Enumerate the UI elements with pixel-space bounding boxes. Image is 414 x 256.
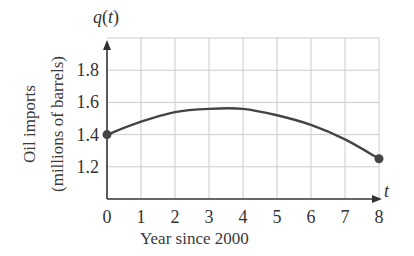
y-tick-label: 1.8 bbox=[77, 60, 100, 80]
y-tick-label: 1.6 bbox=[77, 92, 100, 112]
x-tick-label: 8 bbox=[375, 207, 384, 227]
y-axis-arrow-icon bbox=[103, 40, 111, 50]
x-axis-title: Year since 2000 bbox=[140, 229, 340, 249]
y-axis-function-label: q(t) bbox=[93, 7, 119, 28]
x-tick-label: 7 bbox=[341, 207, 350, 227]
endpoint-dot bbox=[375, 154, 384, 163]
tick-labels: 0123456781.21.41.61.8 bbox=[77, 60, 384, 227]
y-axis-title-line1: Oil imports bbox=[20, 74, 40, 174]
x-tick-label: 0 bbox=[103, 207, 112, 227]
x-axis-arrow-icon bbox=[372, 195, 382, 203]
y-tick-label: 1.2 bbox=[77, 157, 100, 177]
y-tick-label: 1.4 bbox=[77, 125, 100, 145]
x-tick-label: 4 bbox=[239, 207, 248, 227]
y-axis-title-line2: (millions of barrels) bbox=[48, 36, 68, 212]
endpoint-dot bbox=[103, 130, 112, 139]
x-tick-label: 2 bbox=[171, 207, 180, 227]
x-axis-variable-label: t bbox=[384, 181, 389, 202]
x-tick-label: 3 bbox=[205, 207, 214, 227]
x-tick-label: 6 bbox=[307, 207, 316, 227]
x-tick-label: 5 bbox=[273, 207, 282, 227]
x-tick-label: 1 bbox=[137, 207, 146, 227]
